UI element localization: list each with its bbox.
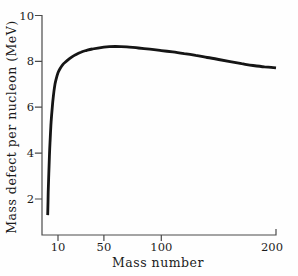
x-tick-label: 200: [261, 241, 283, 253]
y-tick-label: 10: [19, 10, 34, 22]
x-tick-label: 100: [150, 241, 172, 253]
x-tick-label: 50: [97, 241, 112, 253]
y-axis-title: Mass defect per nucleon (MeV): [4, 20, 19, 233]
y-tick-label: 4: [27, 147, 34, 159]
plot-canvas: [0, 0, 298, 276]
y-tick-label: 2: [27, 193, 34, 205]
y-tick-label: 8: [27, 55, 34, 67]
binding-energy-chart: Mass defect per nucleon (MeV) Mass numbe…: [0, 0, 298, 276]
x-tick-label: 10: [51, 241, 66, 253]
x-axis-title: Mass number: [112, 255, 204, 270]
y-tick-label: 6: [27, 101, 34, 113]
binding-energy-curve: [48, 46, 276, 215]
